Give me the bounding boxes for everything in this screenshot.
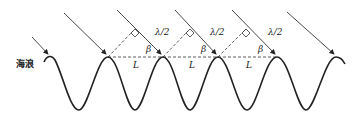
half-wavelength-label: λ/2: [155, 28, 169, 37]
sea-wave-label: 海浪: [16, 57, 34, 70]
spacing-L-label: L: [189, 61, 195, 70]
wave-diffraction-diagram: 海浪 λ/2 λ/2 λ/2 β β β L L L: [0, 0, 355, 121]
half-wavelength-label: λ/2: [268, 28, 282, 37]
spacing-L-label: L: [133, 61, 139, 70]
incident-rays: [32, 10, 334, 54]
right-angle-markers: [131, 29, 250, 37]
angle-beta-label: β: [201, 45, 206, 54]
diagram-svg: [0, 0, 355, 121]
half-wavelength-label: λ/2: [210, 28, 224, 37]
angle-beta-label: β: [146, 45, 151, 54]
angle-beta-label: β: [258, 45, 263, 54]
spacing-L-label: L: [246, 61, 252, 70]
